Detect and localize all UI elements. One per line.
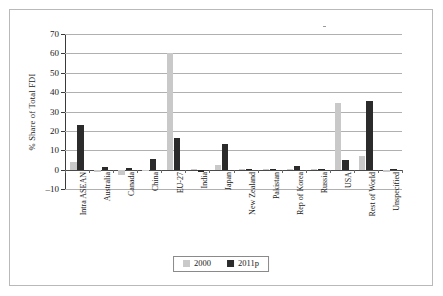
x-axis-label-japan: Japan xyxy=(225,172,233,190)
x-tick-2 xyxy=(113,170,114,173)
x-axis-label-russia: Russia xyxy=(321,172,329,193)
bar-2011p-rest-of-world xyxy=(366,101,372,170)
gridline-10 xyxy=(65,150,402,151)
x-tick-4 xyxy=(161,170,162,173)
gridline-60 xyxy=(65,53,402,54)
y-tick-60 xyxy=(61,53,65,54)
y-tick-50 xyxy=(61,73,65,74)
legend-item-2000: 2000 xyxy=(183,259,211,268)
bar-2011p-usa xyxy=(342,160,348,170)
bar-2000-usa xyxy=(335,103,341,170)
x-tick-13 xyxy=(378,170,379,173)
x-axis-label-usa: USA xyxy=(345,172,353,188)
x-axis-label-pakistan: Pakistan xyxy=(273,172,281,199)
plot-area: 706050403020100–10 Intra ASEANAustraliaC… xyxy=(65,34,402,189)
y-tick-label--10: –10 xyxy=(46,185,60,194)
y-tick-label-40: 40 xyxy=(50,88,59,97)
bar-2000-rest-of-world xyxy=(359,156,365,169)
bar-2011p-eu-27 xyxy=(174,138,180,169)
x-axis-label-india: India xyxy=(201,172,209,188)
y-axis-title-text: % Share of Total FDI xyxy=(27,73,37,150)
x-axis-label-unspecified: Unspecified xyxy=(393,172,401,211)
x-tick-10 xyxy=(306,170,307,173)
y-tick-label-30: 30 xyxy=(50,107,59,116)
bar-2011p-japan xyxy=(222,144,228,170)
x-axis-label-intra-asean: Intra ASEAN xyxy=(80,172,88,215)
gridline-20 xyxy=(65,131,402,132)
y-tick-label-60: 60 xyxy=(50,49,59,58)
gridline-40 xyxy=(65,92,402,93)
x-tick-end xyxy=(402,170,403,173)
x-tick-6 xyxy=(209,170,210,173)
x-axis-category-labels: Intra ASEANAustraliaCanadaChinaEU-27Indi… xyxy=(65,170,402,248)
x-axis-label-canada: Canada xyxy=(128,172,136,196)
x-tick-11 xyxy=(330,170,331,173)
y-tick-20 xyxy=(61,131,65,132)
y-tick-label-70: 70 xyxy=(50,30,59,39)
legend-swatch-2000 xyxy=(183,260,190,267)
x-tick-8 xyxy=(258,170,259,173)
x-tick-5 xyxy=(185,170,186,173)
y-tick-30 xyxy=(61,112,65,113)
x-axis-label-australia: Australia xyxy=(104,172,112,201)
y-tick-70 xyxy=(61,34,65,35)
y-tick-label-50: 50 xyxy=(50,68,59,77)
x-tick-0 xyxy=(65,170,66,173)
legend-item-2011p: 2011p xyxy=(227,259,259,268)
bar-2011p-china xyxy=(150,159,156,169)
x-axis-label-eu-27: EU-27 xyxy=(177,172,185,193)
bar-2000-eu-27 xyxy=(167,53,173,169)
y-axis-title: % Share of Total FDI xyxy=(26,34,38,189)
chart-frame: % Share of Total FDI 706050403020100–10 … xyxy=(9,9,433,286)
x-tick-1 xyxy=(89,170,90,173)
x-tick-7 xyxy=(234,170,235,173)
bar-2011p-intra-asean xyxy=(77,125,83,169)
x-axis-label-rep-of-korea: Rep of Korea xyxy=(297,172,305,215)
gridline-70 xyxy=(65,34,402,35)
y-tick-label-0: 0 xyxy=(55,165,60,174)
bar-2000-intra-asean xyxy=(70,162,76,169)
legend: 2000 2011p xyxy=(173,256,269,272)
legend-swatch-2011p xyxy=(227,260,234,267)
y-tick-40 xyxy=(61,92,65,93)
x-axis-label-china: China xyxy=(152,172,160,191)
x-axis-label-rest-of-world: Rest of World xyxy=(369,172,377,217)
y-tick-label-20: 20 xyxy=(50,126,59,135)
x-tick-12 xyxy=(354,170,355,173)
x-tick-3 xyxy=(137,170,138,173)
x-axis-label-new-zealand: New Zealand xyxy=(249,172,257,215)
y-tick-label-10: 10 xyxy=(50,146,59,155)
gridline-30 xyxy=(65,112,402,113)
x-tick-9 xyxy=(282,170,283,173)
y-tick-10 xyxy=(61,150,65,151)
artifact-speck xyxy=(323,26,326,27)
gridline-50 xyxy=(65,73,402,74)
legend-label-2011p: 2011p xyxy=(238,259,259,268)
legend-label-2000: 2000 xyxy=(194,259,211,268)
